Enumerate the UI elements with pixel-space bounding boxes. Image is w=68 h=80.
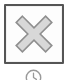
close-button[interactable] [4,4,64,64]
screenshot-canvas [0,0,68,80]
close-x-icon [13,13,55,55]
history-clock-icon[interactable] [25,69,42,80]
